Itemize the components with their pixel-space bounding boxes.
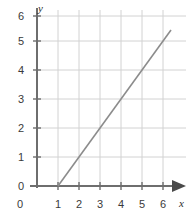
chart-plot-area bbox=[0, 0, 194, 221]
x-axis-arrow-icon bbox=[172, 180, 186, 192]
x-tick-label-3: 3 bbox=[93, 199, 107, 210]
chart-container: 6 5 4 3 2 1 0 0 1 2 3 4 5 6 y x bbox=[0, 0, 194, 221]
x-tick-label-0: 0 bbox=[13, 199, 27, 210]
y-tick-label-2: 2 bbox=[10, 123, 24, 134]
x-tick-label-6: 6 bbox=[156, 199, 170, 210]
y-tick-label-1: 1 bbox=[10, 152, 24, 163]
y-tick-label-0: 0 bbox=[10, 181, 24, 192]
x-axis-label: x bbox=[179, 198, 184, 209]
y-tick-label-5: 5 bbox=[10, 36, 24, 47]
y-axis-label: y bbox=[38, 3, 43, 14]
vertical-gridlines bbox=[58, 10, 163, 186]
x-tick-label-1: 1 bbox=[51, 199, 65, 210]
data-line-series bbox=[58, 30, 171, 186]
y-tick-label-3: 3 bbox=[10, 94, 24, 105]
x-tick-label-5: 5 bbox=[135, 199, 149, 210]
x-tick-label-4: 4 bbox=[114, 199, 128, 210]
y-tick-label-6: 6 bbox=[10, 11, 24, 22]
x-tick-label-2: 2 bbox=[72, 199, 86, 210]
horizontal-gridlines bbox=[37, 16, 186, 157]
y-tick-label-4: 4 bbox=[10, 65, 24, 76]
